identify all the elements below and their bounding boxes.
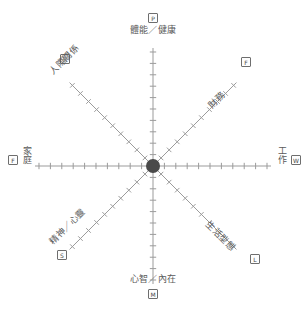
spoke-text-spirit: 精神／心靈	[48, 207, 88, 247]
spoke-text-work: 工作	[277, 146, 286, 164]
marker-badge-lifestyle: L	[250, 254, 260, 264]
wheel-of-life-diagram: P 體能／健康 F 財務 工作 W 生活型態 L 心智／內在 M 精神／心靈 S…	[0, 0, 306, 316]
spoke-text-mental: 心智／內在	[101, 275, 205, 284]
center-hub	[146, 159, 160, 173]
marker-badge-spirit: S	[57, 250, 67, 260]
marker-badge-family: F	[8, 155, 18, 165]
spoke-text-physical: 體能／健康	[101, 26, 205, 35]
marker-badge-finance: F	[241, 57, 251, 67]
marker-badge-physical: P	[148, 13, 158, 23]
spoke-label-spirit: 精神／心靈 S	[44, 206, 118, 268]
marker-badge-mental: M	[148, 289, 158, 299]
spoke-text-lifestyle: 生活型態	[203, 220, 236, 253]
marker-badge-work: W	[291, 155, 301, 165]
spoke-text-family: 家庭	[22, 146, 31, 164]
spoke-label-lifestyle: 生活型態 L	[206, 214, 276, 270]
spoke-label-relations: R 人際關係	[42, 54, 112, 104]
spoke-label-finance: F 財務	[196, 55, 266, 107]
